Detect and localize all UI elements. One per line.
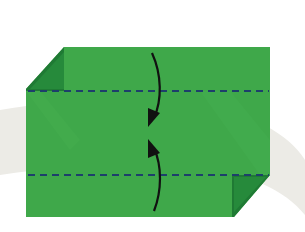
origami-diagram — [0, 0, 305, 232]
